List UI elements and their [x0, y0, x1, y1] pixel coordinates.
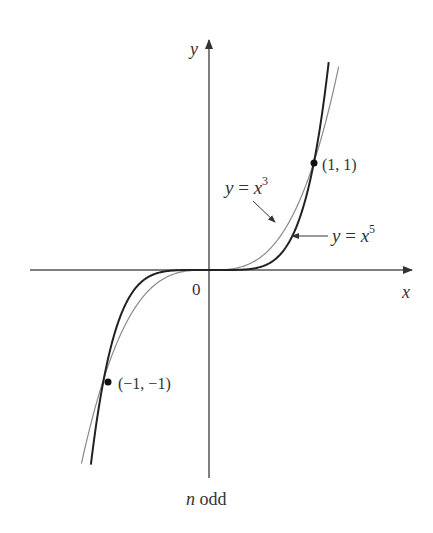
x3-curve-label: y = x3 [223, 174, 268, 198]
x5-curve-label: y = x5 [330, 222, 375, 246]
origin-label: 0 [192, 280, 201, 299]
curve-x-cubed [81, 67, 338, 464]
caption: n odd [186, 489, 227, 509]
y-axis-label: y [188, 39, 198, 59]
curve-x-fifth [91, 62, 329, 465]
point-label-1-1: (1, 1) [322, 156, 357, 174]
point-label-neg1-neg1: (−1, −1) [118, 375, 171, 393]
point-neg1-neg1 [105, 379, 112, 386]
point-1-1 [311, 160, 318, 167]
x3-label-arrow [253, 201, 275, 222]
x-axis-label: x [401, 282, 410, 302]
odd-power-functions-graph: y x 0 (1, 1) (−1, −1) y = x3 y = x5 n od… [0, 0, 433, 533]
